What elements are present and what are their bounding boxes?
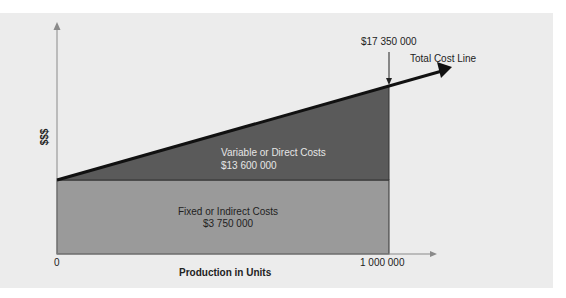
variable-costs-label: Variable or Direct Costs [221, 147, 326, 159]
x-axis-arrowhead-icon [430, 251, 437, 257]
y-axis-title: $$$ [38, 120, 50, 154]
y-axis-title-text: $$$ [39, 129, 50, 146]
total-value-label: $17 350 000 [361, 36, 417, 48]
total-cost-line-label: Total Cost Line [410, 53, 476, 65]
x-origin-tick: 0 [54, 257, 60, 269]
x-max-tick: 1 000 000 [360, 257, 405, 269]
fixed-costs-label: Fixed or Indirect Costs [173, 206, 283, 218]
variable-costs-value: $13 600 000 [221, 160, 277, 172]
fixed-costs-value: $3 750 000 [173, 218, 283, 230]
y-axis-arrowhead-icon [54, 22, 61, 30]
x-axis-title: Production in Units [179, 267, 271, 279]
